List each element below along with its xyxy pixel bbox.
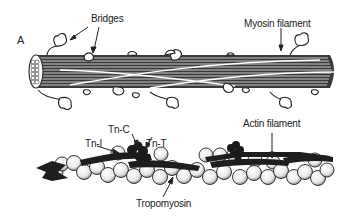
label-bridges: Bridges — [91, 13, 124, 24]
label-myosin-filament: Myosin filament — [244, 18, 310, 29]
label-actin-filament: Actin filament — [243, 118, 300, 129]
label-tn-c: Tn-C — [108, 124, 129, 135]
panel-label: A — [17, 34, 24, 46]
label-tropomyosin: Tropomyosin — [136, 198, 191, 209]
muscle-filament-diagram — [0, 0, 351, 220]
label-tn-i: Tn-I — [85, 138, 102, 149]
myosin-filament — [29, 55, 335, 88]
label-tn-t: Tn-T — [146, 138, 166, 149]
